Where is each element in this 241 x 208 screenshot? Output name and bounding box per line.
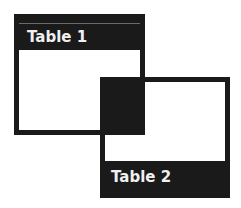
table-1-header: Table 1 xyxy=(19,19,140,50)
intersection-region xyxy=(100,77,145,135)
table-2-header: Table 2 xyxy=(105,161,225,193)
